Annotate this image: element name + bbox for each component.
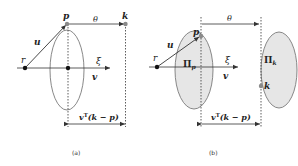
- label-k: k: [122, 11, 128, 21]
- plane-ellipse-k: [261, 32, 297, 108]
- panel-b: r p u θ ξ v k Πp Πk vT(k − p) (b): [149, 14, 297, 156]
- point-center: [66, 66, 70, 70]
- label-v: v: [223, 71, 229, 81]
- point-r: [23, 66, 27, 70]
- plane-ellipse: [50, 30, 84, 110]
- point-k: [259, 84, 263, 88]
- point-p: [199, 34, 203, 38]
- u-vector: [25, 25, 66, 68]
- label-r: r: [21, 55, 26, 65]
- label-p: p: [193, 27, 200, 37]
- label-r: r: [153, 53, 158, 63]
- caption-b: (b): [209, 149, 218, 156]
- label-p: p: [63, 11, 70, 21]
- label-u: u: [34, 37, 41, 47]
- point-r: [155, 65, 159, 69]
- point-p: [65, 22, 69, 26]
- label-theta: θ: [227, 14, 232, 23]
- label-xi: ξ: [96, 56, 102, 66]
- point-k: [123, 22, 127, 26]
- diagram-canvas: r p k u θ ξ v vT(k − p) (a) r p: [0, 0, 298, 166]
- label-v: v: [92, 72, 98, 82]
- label-xi: ξ: [225, 55, 231, 65]
- label-k: k: [264, 81, 270, 91]
- panel-a: r p k u θ ξ v vT(k − p) (a): [17, 11, 128, 156]
- plane-ellipse-p: [175, 31, 213, 109]
- caption-a: (a): [72, 149, 80, 156]
- label-projection: vT(k − p): [79, 112, 119, 122]
- label-projection: vT(k − p): [211, 112, 251, 122]
- label-theta: θ: [93, 15, 98, 24]
- label-u: u: [167, 40, 174, 50]
